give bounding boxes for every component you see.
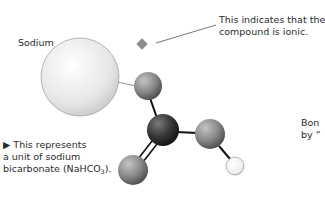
bond-annotation-truncated: Bon by “ <box>301 117 321 141</box>
ionic-marker-icon <box>136 38 147 49</box>
hydrogen-atom <box>226 157 244 175</box>
carbon-atom <box>147 114 179 146</box>
bond-c-o-right <box>176 132 198 133</box>
sodium-label: Sodium <box>18 37 54 49</box>
bond-o-c <box>150 98 157 118</box>
caption-line3-end: ). <box>105 163 112 174</box>
bond-ionic <box>117 82 136 86</box>
bond-annotation-line2: by “ <box>301 129 321 141</box>
caption-line2: a unit of sodium <box>3 151 111 163</box>
caption-line3: bicarbonate (NaHCO <box>3 163 101 174</box>
bond-annotation-line1: Bon <box>301 117 321 129</box>
ionic-annotation: This indicates that the compound is ioni… <box>219 14 325 38</box>
oxygen-atom-bottom <box>118 155 148 185</box>
ionic-annotation-line2: compound is ionic. <box>219 26 325 38</box>
leader-line <box>156 25 216 43</box>
oxygen-atom-right <box>195 119 225 149</box>
ionic-annotation-line1: This indicates that the <box>219 14 325 26</box>
bond-double-a <box>138 141 152 159</box>
figure-caption: ▶ This represents a unit of sodium bicar… <box>3 139 111 175</box>
bond-o-h <box>219 146 230 159</box>
sodium-atom <box>41 38 119 116</box>
bond-double-b <box>143 144 157 162</box>
oxygen-atom-top <box>134 72 162 100</box>
caption-line1: This represents <box>10 139 86 150</box>
